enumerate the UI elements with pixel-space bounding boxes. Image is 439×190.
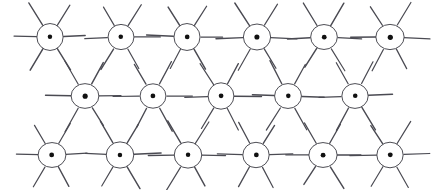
symbol-center-dot <box>322 35 327 40</box>
symbol-ray-180deg <box>14 36 36 37</box>
symbol-center-dot <box>185 35 190 40</box>
symbol-center-dot <box>388 152 393 157</box>
symbol-ray-180deg <box>252 95 274 96</box>
symbol-grid-svg <box>0 0 439 190</box>
figure-canvas <box>0 0 439 190</box>
symbol-center-dot <box>48 34 52 38</box>
symbol-ray-180deg <box>16 154 38 155</box>
symbol-ray-0deg <box>64 36 85 37</box>
symbol-center-dot <box>388 35 393 40</box>
symbol-center-dot <box>49 153 54 158</box>
symbol-center-dot <box>118 153 123 158</box>
symbol-center-dot <box>321 153 326 158</box>
symbol-ray-180deg <box>319 97 341 98</box>
symbol-center-dot <box>83 94 88 99</box>
symbol-center-dot <box>254 153 259 158</box>
symbol-center-dot <box>219 93 224 98</box>
symbol-center-dot <box>353 93 358 98</box>
symbol-center-dot <box>186 152 190 156</box>
symbol-center-dot <box>119 34 124 39</box>
symbol-center-dot <box>286 94 291 99</box>
symbol-ray-180deg <box>46 95 71 96</box>
symbol-center-dot <box>151 94 156 99</box>
symbol-ray-180deg <box>217 154 242 155</box>
symbol-center-dot <box>254 35 259 40</box>
